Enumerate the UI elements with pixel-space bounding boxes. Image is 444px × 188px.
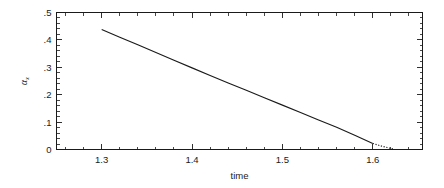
y-tick-label: .1 [44, 117, 52, 128]
data-series-layer [102, 29, 395, 149]
data-series-solid [102, 29, 373, 143]
y-tick-label: .4 [44, 34, 52, 45]
axis-titles-layer: timeαx [19, 77, 248, 181]
y-tick-label: 0 [46, 144, 51, 155]
x-tick-label: 1.4 [185, 154, 198, 165]
x-tick-label: 1.3 [95, 154, 108, 165]
y-axis-title: αx [19, 77, 30, 85]
chart-plot: 1.31.41.51.60.1.2.3.4.5 timeαx [0, 0, 444, 188]
y-tick-label: .2 [44, 89, 52, 100]
y-tick-label: .3 [44, 62, 52, 73]
figure-container: 1.31.41.51.60.1.2.3.4.5 timeαx [0, 0, 444, 188]
x-axis-title: time [231, 170, 249, 181]
y-tick-label: .5 [44, 7, 52, 18]
tick-labels-layer: 1.31.41.51.60.1.2.3.4.5 [44, 7, 380, 165]
x-tick-label: 1.6 [366, 154, 379, 165]
x-tick-label: 1.5 [276, 154, 289, 165]
